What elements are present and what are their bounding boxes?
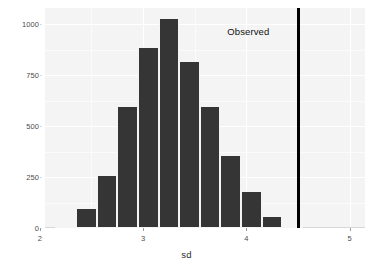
gridline-vertical-major — [350, 8, 351, 228]
x-tick-label: 2 — [38, 234, 42, 243]
histogram-bar — [76, 208, 97, 228]
histogram-figure: count sd 0·250·500·750·1000· 2345 Observ… — [0, 0, 373, 269]
histogram-bar — [179, 61, 200, 228]
x-tick-label: 4 — [244, 234, 248, 243]
histogram-bar — [138, 47, 159, 228]
gridline-horizontal-minor — [45, 101, 365, 102]
plot-panel: Observed — [45, 8, 365, 228]
histogram-bar — [117, 106, 138, 228]
x-tick-mark — [143, 228, 144, 231]
histogram-bar — [241, 191, 262, 228]
histogram-bar — [200, 106, 221, 228]
x-tick-label: 5 — [347, 234, 351, 243]
x-tick-mark — [246, 228, 247, 231]
x-tick-label: 3 — [141, 234, 145, 243]
gridline-vertical-minor — [91, 8, 92, 228]
histogram-bar — [55, 226, 76, 228]
gridline-horizontal-major — [45, 75, 365, 76]
x-tick-mark — [40, 228, 41, 231]
observed-value-line — [297, 8, 300, 228]
x-tick-mark — [350, 228, 351, 231]
observed-annotation-label: Observed — [227, 26, 269, 37]
gridline-horizontal-minor — [45, 50, 365, 51]
histogram-bar — [220, 155, 241, 228]
gridline-horizontal-major — [45, 24, 365, 25]
histogram-bar — [97, 175, 118, 228]
histogram-bar — [262, 216, 283, 228]
histogram-bar — [159, 18, 180, 228]
